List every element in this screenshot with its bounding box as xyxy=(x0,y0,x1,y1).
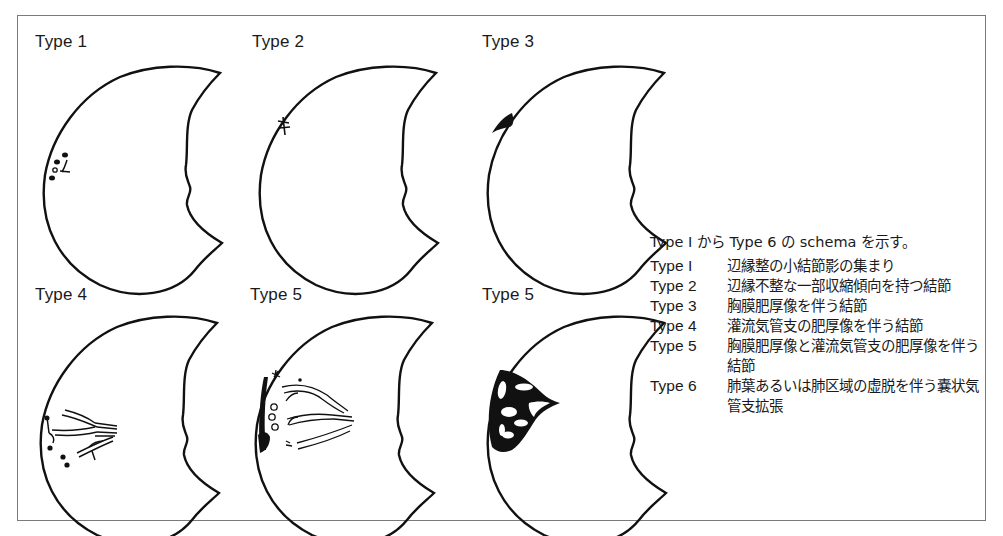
panel-label: Type 4 xyxy=(35,285,87,305)
legend: Type I から Type 6 の schema を示す。 Type I 辺縁… xyxy=(650,232,990,416)
panel-label: Type 3 xyxy=(482,32,534,52)
panel-type4: Type 4 xyxy=(35,283,235,513)
legend-type: Type 2 xyxy=(650,276,727,296)
legend-item: Type 5 胸膜肥厚像と灌流気管支の肥厚像を伴う結節 xyxy=(650,336,990,376)
panel-type5: Type 5 xyxy=(250,283,450,513)
panel-label: Type 1 xyxy=(35,32,87,52)
legend-desc: 辺縁整の小結節影の集まり xyxy=(727,256,990,276)
panel-type3: Type 3 xyxy=(482,30,682,260)
lung-diagram-type4 xyxy=(37,315,237,515)
lung-diagram-type1 xyxy=(40,65,240,265)
legend-item: Type 3 胸膜肥厚像を伴う結節 xyxy=(650,296,990,316)
legend-desc: 胸膜肥厚像を伴う結節 xyxy=(727,296,990,316)
lung-diagram-type5 xyxy=(252,315,452,515)
lung-diagram-type2 xyxy=(256,65,456,265)
legend-type: Type 6 xyxy=(650,376,727,396)
legend-type: Type 4 xyxy=(650,316,727,336)
panel-label: Type 5 xyxy=(482,285,534,305)
legend-type: Type 3 xyxy=(650,296,727,316)
legend-type: Type 5 xyxy=(650,336,727,356)
legend-item: Type I 辺縁整の小結節影の集まり xyxy=(650,256,990,276)
legend-desc: 辺縁不整な一部収縮傾向を持つ結節 xyxy=(727,276,990,296)
panel-label: Type 5 xyxy=(250,285,302,305)
legend-desc: 胸膜肥厚像と灌流気管支の肥厚像を伴う結節 xyxy=(727,336,990,376)
panel-type2: Type 2 xyxy=(252,30,452,260)
panel-type1: Type 1 xyxy=(35,30,235,260)
legend-item: Type 2 辺縁不整な一部収縮傾向を持つ結節 xyxy=(650,276,990,296)
panel-label: Type 2 xyxy=(252,32,304,52)
legend-intro: Type I から Type 6 の schema を示す。 xyxy=(650,232,990,252)
legend-type: Type I xyxy=(650,256,727,276)
legend-desc: 肺葉あるいは肺区域の虚脱を伴う嚢状気管支拡張 xyxy=(727,376,990,416)
legend-desc: 灌流気管支の肥厚像を伴う結節 xyxy=(727,316,990,336)
legend-item: Type 6 肺葉あるいは肺区域の虚脱を伴う嚢状気管支拡張 xyxy=(650,376,990,416)
legend-item: Type 4 灌流気管支の肥厚像を伴う結節 xyxy=(650,316,990,336)
